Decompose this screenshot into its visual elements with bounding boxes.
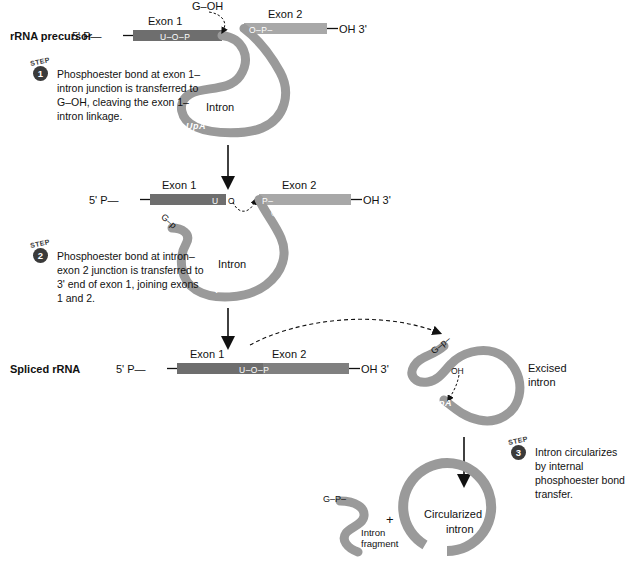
fragment-gp-label: G–P– [323, 494, 346, 505]
exon2-inner-label-stage1: O–P– [249, 25, 273, 36]
three-prime-label-stage3: OH 3' [361, 363, 389, 377]
step-3-badge: 3 [511, 445, 526, 460]
excised-intron-ribbon [412, 346, 520, 421]
exon2-title-stage3: Exon 2 [272, 348, 306, 362]
circularized-intron-label-line2: intron [446, 523, 474, 537]
five-prime-label-stage3: 5' P— [116, 363, 146, 377]
row-label-spliced-rrna: Spliced rRNA [10, 363, 80, 377]
exon1-title-stage2: Exon 1 [162, 179, 196, 193]
intron-fragment-label-line1: Intron [361, 527, 385, 538]
step-2-text: Phosphoester bond at intron–exon 2 junct… [57, 250, 207, 305]
excised-upa-label: UpA [432, 398, 452, 409]
circularized-intron-ring [403, 463, 491, 551]
g-oh-attack-arrow [209, 12, 225, 31]
three-prime-label-stage2: OH 3' [363, 194, 391, 208]
exon2-title-stage1: Exon 2 [268, 8, 302, 22]
g-oh-label: G–OH [192, 0, 223, 14]
step-2-badge: 2 [33, 248, 48, 263]
exon2-bar-stage3 [263, 363, 349, 374]
excised-oh-pointer [449, 375, 459, 399]
three-prime-label-stage1: OH 3' [339, 23, 367, 37]
junction-label-stage3: U–O–P [239, 365, 269, 376]
exon1-u-label-stage2: U [212, 196, 219, 207]
rna-splicing-diagram: rRNA precursor 5' P— Exon 1 U–O–P Exon 2… [0, 0, 629, 569]
five-prime-label-stage1: 5' P— [72, 30, 102, 44]
step-3-text: Intron circularizes by internal phosphoe… [535, 446, 629, 501]
exon1-o-label-stage2: O [228, 196, 235, 207]
exon1-title-stage3: Exon 1 [190, 348, 224, 362]
exon2-p-label-stage2: P– [262, 196, 273, 207]
upa-label-stage2: UpA [209, 283, 229, 294]
excised-oh-label: OH [451, 366, 464, 377]
exon1-attack-arrow-stage2 [233, 201, 255, 211]
step-1-badge: 1 [33, 66, 48, 81]
circularized-intron-label-line1: Circularized [424, 508, 482, 522]
excised-intron-label-line2: intron [528, 375, 556, 389]
intron-label-stage2: Intron [218, 258, 246, 272]
exon2-title-stage2: Exon 2 [282, 179, 316, 193]
five-prime-label-stage2: 5' P— [89, 194, 119, 208]
exon1-title-stage1: Exon 1 [148, 15, 182, 29]
plus-sign: + [386, 512, 394, 528]
excised-intron-label-line1: Excised [528, 361, 567, 375]
intron-label-stage1: Intron [206, 101, 234, 115]
step-1-text: Phosphoester bond at exon 1–intron junct… [57, 68, 207, 123]
excised-intron-arrow [250, 319, 437, 345]
exon1-inner-label-stage1: U–O–P [160, 32, 190, 43]
intron-fragment-label-line2: fragment [361, 538, 399, 549]
